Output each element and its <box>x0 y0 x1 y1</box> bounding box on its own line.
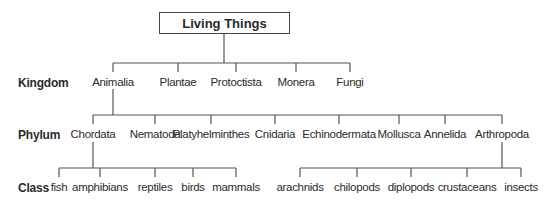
class-arthropoda-node: diplopods <box>388 181 435 193</box>
kingdom-node: Protoctista <box>210 76 261 88</box>
class-chordata-node: fish <box>51 181 68 193</box>
root-node-living-things: Living Things <box>159 12 290 34</box>
class-arthropoda-node: chilopods <box>334 181 380 193</box>
row-label-kingdom: Kingdom <box>18 76 69 90</box>
phylum-node: Arthropoda <box>475 128 529 140</box>
class-chordata-node: reptiles <box>138 181 173 193</box>
kingdom-node: Monera <box>277 76 314 88</box>
class-chordata-node: birds <box>181 181 204 193</box>
class-arthropoda-node: crustaceans <box>438 181 497 193</box>
taxonomy-diagram: Living Things Kingdom Phylum Class Anima… <box>0 0 552 204</box>
phylum-node: Chordata <box>71 128 116 140</box>
phylum-node: Platyhelminthes <box>173 128 250 140</box>
phylum-node: Cnidaria <box>255 128 295 140</box>
root-label: Living Things <box>182 16 267 31</box>
phylum-node: Annelida <box>424 128 466 140</box>
row-label-class: Class <box>18 181 49 195</box>
class-arthropoda-node: insects <box>504 181 538 193</box>
kingdom-node: Animalia <box>92 76 134 88</box>
row-label-phylum: Phylum <box>18 128 60 142</box>
phylum-node: Mollusca <box>378 128 421 140</box>
phylum-node: Echinodermata <box>302 128 375 140</box>
class-chordata-node: amphibians <box>72 181 128 193</box>
kingdom-node: Fungi <box>336 76 363 88</box>
class-arthropoda-node: arachnids <box>276 181 323 193</box>
class-chordata-node: mammals <box>212 181 260 193</box>
kingdom-node: Plantae <box>160 76 197 88</box>
